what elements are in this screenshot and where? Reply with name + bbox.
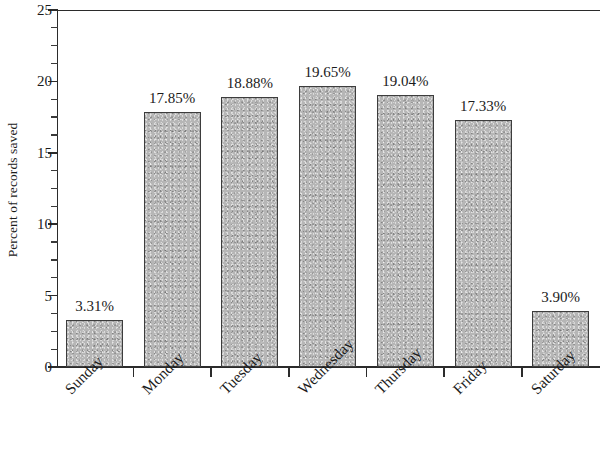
y-tick-minor: [51, 259, 58, 260]
bar-value-label-tuesday: 18.88%: [227, 76, 273, 91]
x-tick: [288, 367, 290, 377]
bar-thursday: [377, 95, 434, 367]
y-tick-minor: [51, 45, 58, 46]
y-tick-label: 0: [8, 360, 52, 375]
bar-tuesday: [221, 97, 278, 367]
bar-wednesday: [299, 86, 356, 367]
y-tick-minor: [51, 63, 58, 64]
y-axis-title-text: Percent of records saved: [5, 123, 21, 258]
y-tick-minor: [51, 241, 58, 242]
y-tick-minor: [51, 170, 58, 171]
bar-value-label-saturday: 3.90%: [541, 290, 580, 305]
bar-value-label-sunday: 3.31%: [75, 299, 114, 314]
bar-value-label-wednesday: 19.65%: [304, 65, 350, 80]
bar-chart: Percent of records saved 0510152025 3.31…: [0, 0, 604, 452]
y-tick-minor: [51, 188, 58, 189]
bar-value-label-thursday: 19.04%: [382, 74, 428, 89]
y-tick-minor: [51, 206, 58, 207]
x-tick: [366, 367, 368, 377]
bar-value-label-monday: 17.85%: [149, 91, 195, 106]
x-tick: [521, 367, 523, 377]
x-tick: [443, 367, 445, 377]
y-tick-minor: [51, 116, 58, 117]
y-tick-label: 25: [8, 3, 52, 18]
y-tick-minor: [51, 313, 58, 314]
y-tick-minor: [51, 277, 58, 278]
y-axis-title: Percent of records saved: [0, 0, 26, 380]
y-tick-label: 20: [8, 74, 52, 89]
y-tick-label: 10: [8, 217, 52, 232]
y-tick-minor: [51, 27, 58, 28]
y-tick-minor: [51, 349, 58, 350]
x-tick: [133, 367, 135, 377]
y-tick-minor: [51, 331, 58, 332]
y-tick-minor: [51, 99, 58, 100]
bar-friday: [455, 120, 512, 367]
x-tick: [210, 367, 212, 377]
y-tick-minor: [51, 134, 58, 135]
bar-value-label-friday: 17.33%: [460, 99, 506, 114]
y-tick-label: 15: [8, 145, 52, 160]
bar-monday: [144, 112, 201, 367]
y-tick-label: 5: [8, 288, 52, 303]
